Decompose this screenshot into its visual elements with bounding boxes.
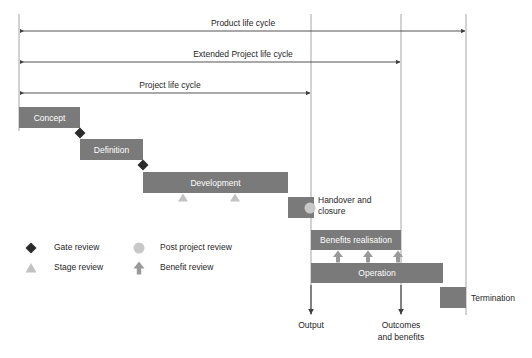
extended-project-life-cycle-label: Extended Project life cycle [193, 49, 293, 59]
product-life-cycle-label: Product life cycle [211, 18, 276, 28]
circle-icon [305, 203, 316, 214]
phase-bar-operation-label: Operation [358, 268, 396, 278]
lifecycle-span-arrows: Product life cycle Extended Project life… [20, 18, 465, 93]
phase-bar-definition-label: Definition [94, 145, 130, 155]
legend: Gate review Stage review Post project re… [26, 242, 233, 274]
diamond-icon [75, 128, 86, 139]
phase-bar-termination[interactable] [440, 287, 466, 308]
up-arrow-icon [134, 262, 145, 275]
diagram-canvas: Product life cycle Extended Project life… [0, 0, 532, 358]
triangle-icon [26, 263, 37, 273]
legend-gate-review-label: Gate review [54, 242, 100, 252]
phase-bar-operation[interactable]: Operation [311, 263, 443, 283]
phase-bar-benefits-realisation[interactable]: Benefits realisation [311, 230, 401, 250]
phase-bar-concept[interactable]: Concept [19, 107, 80, 128]
handover-and-closure-label-line1: Handover and [318, 195, 372, 205]
outcomes-label-line1: Outcomes [382, 320, 421, 330]
output-label: Output [298, 320, 324, 330]
output-markers: Output Outcomes and benefits [298, 285, 424, 342]
diamond-icon [26, 243, 37, 254]
benefit-review-markers [333, 251, 403, 263]
phase-bar-benefits-realisation-label: Benefits realisation [320, 235, 392, 245]
triangle-icon [230, 194, 240, 202]
phase-bar-concept-label: Concept [34, 113, 66, 123]
diamond-icon [138, 160, 149, 171]
termination-label: Termination [471, 293, 515, 303]
legend-post-project-review-label: Post project review [160, 242, 233, 252]
phase-bars: Concept Definition Development Benefits … [19, 107, 466, 308]
up-arrow-icon [333, 251, 343, 263]
project-life-cycle-label: Project life cycle [139, 80, 201, 90]
phase-bar-definition[interactable]: Definition [80, 139, 143, 160]
product-life-cycle-diagram: Product life cycle Extended Project life… [0, 0, 532, 358]
legend-benefit-review-label: Benefit review [160, 262, 214, 272]
phase-bar-development-label: Development [190, 178, 241, 188]
handover-and-closure-label-line2: closure [318, 206, 346, 216]
post-project-review-markers [305, 203, 316, 214]
stage-review-markers [178, 194, 240, 202]
triangle-icon [178, 194, 188, 202]
phase-bar-development[interactable]: Development [143, 172, 288, 193]
legend-stage-review-label: Stage review [54, 262, 104, 272]
up-arrow-icon [363, 251, 373, 263]
circle-icon [134, 243, 145, 254]
outcomes-label-line2: and benefits [378, 332, 424, 342]
